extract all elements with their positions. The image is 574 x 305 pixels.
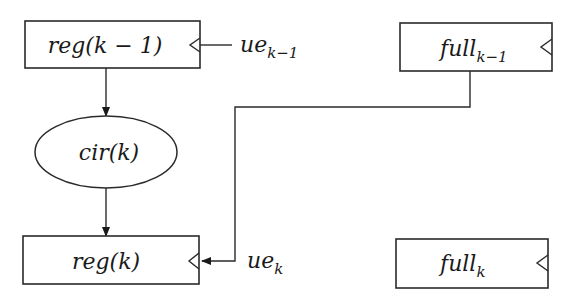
node-cir-k: cir(k) (35, 116, 177, 188)
node-label: cir(k) (79, 140, 139, 165)
node-full-k-minus-1: fullk−1 (400, 23, 552, 71)
node-reg-k: reg(k) (23, 236, 199, 284)
signal-label-ue-k-minus-1: uek−1 (240, 32, 298, 62)
node-label: reg(k) (72, 249, 140, 274)
signal-label-ue-k: uek (247, 248, 283, 278)
edge-full-to-reg-clock (202, 71, 470, 261)
node-reg-k-minus-1: reg(k − 1) (25, 21, 200, 68)
node-full-k: fullk (396, 239, 548, 288)
diagram-canvas: reg(k − 1) uek−1 cir(k) reg(k) fullk−1 u… (0, 0, 574, 305)
node-label: reg(k − 1) (48, 33, 163, 58)
